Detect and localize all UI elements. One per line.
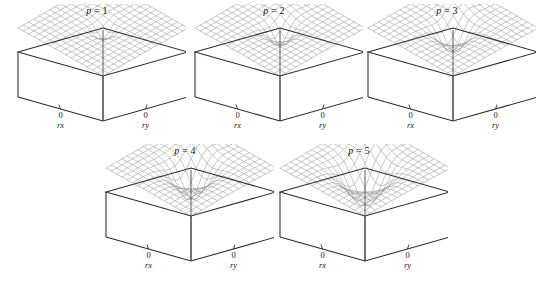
param-value: = 4 — [179, 145, 195, 156]
x-axis-label-p2: rx — [226, 120, 250, 130]
param-value: = 5 — [353, 145, 369, 156]
surface-panel-p3: p = 300rxry — [358, 4, 536, 143]
surface-panel-p2: p = 200rxry — [185, 4, 363, 143]
y-axis-label-p3: ry — [484, 120, 508, 130]
param-value: = 3 — [441, 5, 457, 16]
ytick-label-zero-p5: 0 — [398, 250, 418, 260]
xtick-label-zero-p3: 0 — [401, 110, 421, 120]
surface-panel-p1: p = 100rxry — [8, 4, 186, 143]
figure-root: p = 100rxryp = 200rxryp = 300rxryp = 400… — [0, 0, 542, 284]
y-axis-label-p4: ry — [222, 260, 246, 270]
x-axis-label-p5: rx — [311, 260, 335, 270]
x-axis-label-p3: rx — [399, 120, 423, 130]
y-axis-label-p1: ry — [134, 120, 158, 130]
ytick-label-zero-p4: 0 — [224, 250, 244, 260]
panel-title-p2: p = 2 — [185, 5, 363, 16]
xtick-label-zero-p1: 0 — [51, 110, 71, 120]
panel-title-p3: p = 3 — [358, 5, 536, 16]
y-axis-label-p2: ry — [311, 120, 335, 130]
ytick-label-zero-p1: 0 — [136, 110, 156, 120]
surface-panel-p4: p = 400rxry — [96, 144, 274, 283]
ytick-label-zero-p2: 0 — [313, 110, 333, 120]
x-axis-label-p4: rx — [137, 260, 161, 270]
surface-panel-p5: p = 500rxry — [270, 144, 448, 283]
x-axis-label-p1: rx — [49, 120, 73, 130]
ytick-label-zero-p3: 0 — [486, 110, 506, 120]
param-value: = 1 — [91, 5, 107, 16]
param-value: = 2 — [268, 5, 284, 16]
panel-title-p5: p = 5 — [270, 145, 448, 156]
panel-title-p4: p = 4 — [96, 145, 274, 156]
xtick-label-zero-p4: 0 — [139, 250, 159, 260]
y-axis-label-p5: ry — [396, 260, 420, 270]
panel-title-p1: p = 1 — [8, 5, 186, 16]
xtick-label-zero-p2: 0 — [228, 110, 248, 120]
xtick-label-zero-p5: 0 — [313, 250, 333, 260]
